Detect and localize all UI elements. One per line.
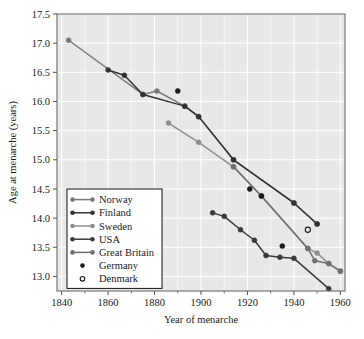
legend-marker xyxy=(90,211,95,216)
y-tick-label: 15.0 xyxy=(32,154,50,165)
y-tick-label: 13.0 xyxy=(32,271,50,282)
y-tick-label: 15.5 xyxy=(32,125,50,136)
legend-marker xyxy=(70,250,75,255)
chart-container: 13.013.514.014.515.015.516.016.517.017.5… xyxy=(0,0,364,339)
data-point xyxy=(305,246,310,251)
data-point xyxy=(196,114,201,119)
data-point xyxy=(326,261,331,266)
data-point xyxy=(252,238,257,243)
legend-marker xyxy=(90,237,95,242)
y-tick-label: 14.5 xyxy=(32,184,50,195)
data-point xyxy=(175,88,180,93)
legend-marker-filled xyxy=(80,263,85,268)
legend-marker xyxy=(70,211,75,216)
legend-marker xyxy=(90,250,95,255)
legend-label: Denmark xyxy=(99,273,139,284)
legend-marker xyxy=(70,224,75,229)
data-point xyxy=(312,258,317,263)
y-tick-label: 13.5 xyxy=(32,242,50,253)
data-point xyxy=(210,210,215,215)
menarche-age-line-chart: 13.013.514.014.515.015.516.016.517.017.5… xyxy=(0,0,364,339)
x-tick-label: 1960 xyxy=(330,297,351,308)
data-point xyxy=(66,38,71,43)
data-point xyxy=(196,140,201,145)
legend-label: Finland xyxy=(99,207,132,218)
data-point xyxy=(182,104,187,109)
legend-marker xyxy=(90,224,95,229)
data-point xyxy=(231,157,236,162)
series-denmark xyxy=(305,227,310,232)
x-axis-title: Year of menarche xyxy=(164,314,238,325)
data-point xyxy=(106,67,111,72)
legend-marker-open xyxy=(80,277,85,282)
data-point xyxy=(291,200,296,205)
legend-label: Germany xyxy=(99,260,139,271)
data-point xyxy=(122,73,127,78)
legend-marker xyxy=(90,197,95,202)
legend-marker xyxy=(70,237,75,242)
legend-label: Norway xyxy=(99,194,134,205)
y-axis-title: Age at menarche (years) xyxy=(7,101,19,204)
data-point xyxy=(315,221,320,226)
legend: NorwayFinlandSwedenUSAGreat BritainGerma… xyxy=(67,189,162,288)
x-tick-label: 1920 xyxy=(237,297,258,308)
y-tick-label: 16.0 xyxy=(32,96,50,107)
data-point xyxy=(166,121,171,126)
data-point xyxy=(247,186,252,191)
data-point xyxy=(222,214,227,219)
y-tick-label: 16.5 xyxy=(32,67,50,78)
y-tick-label: 14.0 xyxy=(32,213,50,224)
data-point xyxy=(291,256,296,261)
legend-marker xyxy=(70,197,75,202)
data-point xyxy=(315,251,320,256)
legend-label: USA xyxy=(99,234,120,245)
y-tick-label: 17.5 xyxy=(32,9,50,20)
data-point xyxy=(280,244,285,249)
data-point xyxy=(338,269,343,274)
data-point xyxy=(277,255,282,260)
data-point xyxy=(238,227,243,232)
data-point xyxy=(154,88,159,93)
data-point xyxy=(259,193,264,198)
x-tick-label: 1940 xyxy=(283,297,304,308)
x-tick-label: 1860 xyxy=(98,297,119,308)
x-tick-label: 1840 xyxy=(51,297,72,308)
x-tick-label: 1900 xyxy=(191,297,212,308)
legend-label: Great Britain xyxy=(99,247,155,258)
data-point xyxy=(140,92,145,97)
x-tick-label: 1880 xyxy=(144,297,165,308)
data-point-open xyxy=(305,227,310,232)
data-point xyxy=(264,253,269,258)
legend-label: Sweden xyxy=(99,221,133,232)
y-tick-label: 17.0 xyxy=(32,38,50,49)
data-point xyxy=(231,164,236,169)
